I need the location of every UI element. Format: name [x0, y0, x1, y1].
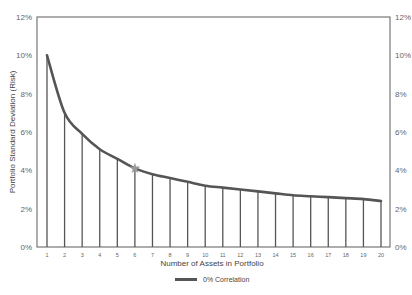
- x-tick-label: 5: [116, 252, 119, 258]
- y-tick-label: 12%: [16, 13, 32, 22]
- y-tick-label-right: 0%: [395, 243, 407, 252]
- x-tick-label: 16: [308, 252, 314, 258]
- x-tick-label: 7: [151, 252, 154, 258]
- x-tick-label: 18: [343, 252, 349, 258]
- drop-lines: [47, 55, 381, 247]
- y-axis-left-ticks: 0%2%4%6%8%10%12%: [16, 13, 32, 252]
- x-tick-label: 9: [186, 252, 189, 258]
- x-tick-label: 19: [360, 252, 366, 258]
- x-tick-label: 10: [202, 252, 208, 258]
- x-tick-label: 12: [237, 252, 243, 258]
- y-tick-label: 0%: [20, 243, 32, 252]
- x-tick-label: 3: [81, 252, 84, 258]
- y-tick-label: 6%: [20, 128, 32, 137]
- x-axis-ticks: 1234567891011121314151617181920: [45, 252, 384, 258]
- x-tick-label: 20: [378, 252, 384, 258]
- legend-label: 0% Correlation: [203, 276, 249, 283]
- y-axis-right-ticks: 0%2%4%6%8%10%12%: [395, 13, 411, 252]
- y-tick-label: 8%: [20, 90, 32, 99]
- y-tick-label-right: 10%: [395, 51, 411, 60]
- x-tick-label: 15: [290, 252, 296, 258]
- x-tick-label: 14: [272, 252, 278, 258]
- x-tick-label: 17: [325, 252, 331, 258]
- x-tick-label: 8: [169, 252, 172, 258]
- series-line: [47, 55, 381, 201]
- x-tick-label: 11: [220, 252, 226, 258]
- x-axis-title: Number of Assets in Portfolio: [160, 259, 264, 268]
- x-tick-label: 4: [98, 252, 101, 258]
- y-tick-label: 4%: [20, 166, 32, 175]
- y-axis-title: Portfolio Standard Deviation (Risk): [8, 70, 17, 193]
- legend: 0% Correlation: [175, 276, 249, 283]
- y-tick-label: 2%: [20, 205, 32, 214]
- risk-vs-assets-chart: 0%2%4%6%8%10%12% 0%2%4%6%8%10%12% 123456…: [0, 0, 412, 295]
- y-tick-label-right: 4%: [395, 166, 407, 175]
- legend-line-swatch: [175, 278, 197, 281]
- y-tick-label: 10%: [16, 51, 32, 60]
- y-tick-label-right: 6%: [395, 128, 407, 137]
- x-tick-label: 2: [63, 252, 66, 258]
- x-tick-label: 1: [45, 252, 48, 258]
- plot-frame: [37, 17, 390, 247]
- y-tick-label-right: 12%: [395, 13, 411, 22]
- y-tick-label-right: 8%: [395, 90, 407, 99]
- x-tick-label: 13: [255, 252, 261, 258]
- x-tick-label: 6: [133, 252, 136, 258]
- y-tick-label-right: 2%: [395, 205, 407, 214]
